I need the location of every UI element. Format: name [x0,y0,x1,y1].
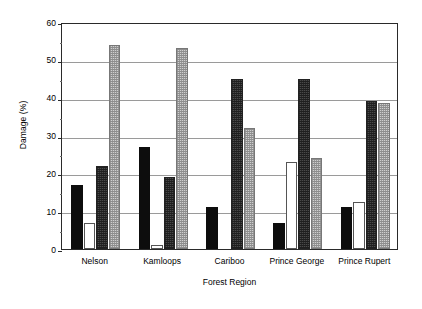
y-axis-tick-label: 0 [28,246,56,255]
bar-prince-rupert-series-1-black [341,207,353,249]
bar-nelson-series-2-open [84,223,96,249]
bar-kamloops-series-2-open [151,245,163,249]
y-axis-tick-labels: 0102030405060 [28,23,56,250]
bar-cariboo-series-3-dark-hatch [231,79,243,249]
x-axis-tick-label: Nelson [81,256,107,266]
bar-kamloops-series-4-light-hatch [176,48,188,249]
x-axis-title: Forest Region [61,277,398,287]
x-axis-tick-label: Prince Rupert [338,256,390,266]
bar-prince-rupert-series-3-dark-hatch [366,101,378,249]
bar-prince-george-series-3-dark-hatch [298,79,310,249]
x-axis-tick-label: Prince George [269,256,324,266]
y-axis-tick-label: 30 [28,132,56,141]
bars-layer [62,24,397,249]
x-axis-tick-labels: NelsonKamloopsCaribooPrince GeorgePrince… [61,256,398,270]
bar-nelson-series-4-light-hatch [109,45,121,249]
bar-chart-figure: Damage (%) 0102030405060 NelsonKamloopsC… [0,0,422,309]
plot-area [61,23,398,250]
x-axis-tick-label: Kamloops [143,256,181,266]
bar-cariboo-series-1-black [206,207,218,249]
y-axis-tick-label: 10 [28,208,56,217]
y-axis-tick-label: 50 [28,56,56,65]
y-axis-tick-label: 60 [28,19,56,28]
bar-kamloops-series-1-black [139,147,151,249]
y-axis-title: Damage (%) [18,70,28,180]
bar-prince-rupert-series-2-open [353,202,365,249]
x-axis-tick-label: Cariboo [215,256,245,266]
y-axis-tick [58,251,62,252]
bar-prince-george-series-2-open [286,162,298,249]
bar-nelson-series-3-dark-hatch [96,166,108,249]
bar-prince-george-series-4-light-hatch [311,158,323,249]
bar-prince-rupert-series-4-light-hatch [378,103,390,249]
y-axis-tick-label: 20 [28,170,56,179]
bar-cariboo-series-4-light-hatch [244,128,256,249]
bar-kamloops-series-3-dark-hatch [164,177,176,249]
y-axis-tick-label: 40 [28,94,56,103]
bar-prince-george-series-1-black [273,223,285,249]
bar-nelson-series-1-black [71,185,83,249]
